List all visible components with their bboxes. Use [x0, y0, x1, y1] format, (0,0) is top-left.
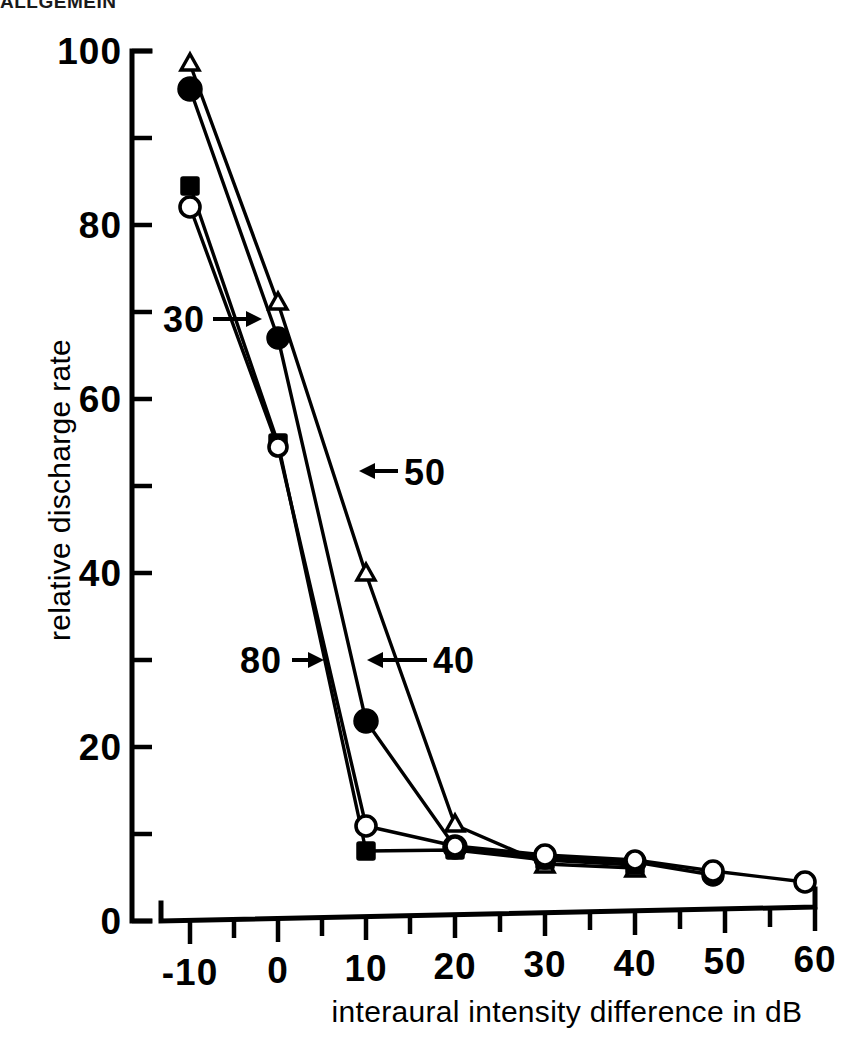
x-tick-label-40: 40 — [613, 943, 656, 984]
x-axis-line — [161, 889, 815, 921]
marker-triangle-open — [269, 293, 287, 309]
marker-square-filled — [181, 177, 199, 195]
annotation-label-30: 30 — [163, 299, 205, 340]
marker-circle-open — [269, 438, 287, 456]
x-axis-title: interaural intensity difference in dB — [332, 995, 803, 1028]
marker-circle-filled — [267, 327, 289, 349]
annotation-label-50: 50 — [404, 452, 446, 493]
annotation-30: 30 — [163, 299, 262, 340]
marker-circle-open — [795, 872, 815, 892]
annotation-label-40: 40 — [433, 640, 475, 681]
marker-circle-open — [446, 837, 464, 855]
marker-circle-open — [535, 845, 555, 865]
annotation-40: 40 — [367, 640, 475, 681]
series-line-50 — [190, 89, 713, 875]
y-tick-label-40: 40 — [79, 553, 122, 594]
y-axis-title: relative discharge rate — [43, 339, 76, 641]
annotation-arrow-head-50 — [359, 463, 375, 479]
marker-circle-filled — [354, 709, 378, 733]
x-tick-label--10: -10 — [162, 952, 218, 993]
x-tick-label-50: 50 — [703, 941, 746, 982]
y-tick-label-100: 100 — [57, 31, 122, 72]
x-tick-label-0: 0 — [267, 950, 289, 991]
series-markers-50 — [178, 77, 724, 886]
y-tick-label-20: 20 — [79, 727, 122, 768]
x-axis-tick-labels: -10 0 10 20 30 40 50 60 — [162, 939, 837, 993]
annotation-50: 50 — [359, 452, 446, 493]
annotation-80: 80 — [240, 640, 324, 681]
annotation-arrow-head-80 — [308, 652, 324, 668]
y-tick-label-80: 80 — [79, 205, 122, 246]
x-tick-label-30: 30 — [523, 944, 566, 985]
marker-circle-open — [180, 197, 200, 217]
annotation-arrow-head-40 — [367, 652, 383, 668]
marker-square-filled — [357, 842, 375, 860]
annotation-label-80: 80 — [240, 640, 282, 681]
x-tick-label-60: 60 — [793, 939, 836, 980]
discharge-rate-chart: 100 80 60 40 20 0 -10 — [0, 0, 844, 1045]
marker-circle-filled — [178, 77, 202, 101]
annotation-arrow-head-30 — [246, 311, 262, 327]
marker-circle-open — [703, 861, 723, 881]
y-tick-label-60: 60 — [79, 379, 122, 420]
figure-root: ALLGEMEIN 100 80 60 40 — [0, 0, 844, 1045]
x-tick-label-10: 10 — [344, 948, 387, 989]
marker-triangle-open — [446, 815, 464, 831]
marker-triangle-open — [357, 564, 375, 580]
y-axis-ticks — [132, 51, 152, 921]
y-tick-label-0: 0 — [100, 901, 122, 942]
marker-circle-open — [356, 816, 376, 836]
x-tick-label-20: 20 — [433, 946, 476, 987]
series-line-30 — [190, 186, 635, 865]
marker-triangle-open — [181, 54, 199, 70]
series-markers-30 — [181, 177, 644, 874]
marker-circle-open — [626, 851, 644, 869]
